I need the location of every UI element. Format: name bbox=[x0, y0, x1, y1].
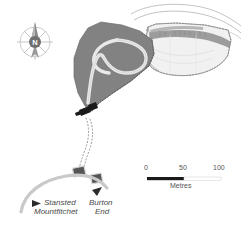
map-graphics-layer: N bbox=[0, 0, 241, 228]
excavation-area-polygon bbox=[74, 22, 154, 111]
direction-arrow-stansted bbox=[32, 200, 41, 207]
site-plan-map: N 0 50 100 Metres Stansted Mountfitchet … bbox=[0, 0, 241, 228]
trackway-dotted-path bbox=[79, 118, 93, 172]
scale-unit-label: Metres bbox=[170, 182, 191, 189]
compass-north-label: N bbox=[32, 38, 37, 47]
place-label-burton-line1: Burton bbox=[89, 198, 113, 207]
compass-rose: N bbox=[17, 22, 53, 60]
scale-tick-50: 50 bbox=[179, 164, 187, 171]
scale-tick-100: 100 bbox=[213, 164, 225, 171]
scale-bar bbox=[147, 177, 221, 180]
scale-tick-0: 0 bbox=[144, 164, 148, 171]
place-label-burton-line2: End bbox=[95, 207, 109, 216]
stripped-area-polygon bbox=[146, 23, 231, 76]
place-label-stansted-line1: Stansted bbox=[44, 198, 76, 207]
direction-arrow-burton bbox=[92, 187, 102, 196]
place-label-stansted-line2: Mountfitchet bbox=[34, 207, 78, 216]
